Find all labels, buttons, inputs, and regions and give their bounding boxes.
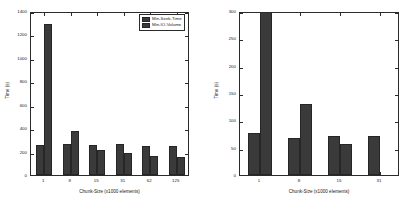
x-tick-mark (380, 172, 381, 175)
bar-left-62-s0 (142, 146, 150, 175)
x-tick-label: 31 (377, 179, 382, 183)
bar-right-8-s0 (288, 138, 300, 175)
x-tick-label: 15 (337, 179, 342, 183)
x-tick-label: 62 (147, 179, 152, 183)
x-tick-mark-top (97, 13, 98, 16)
x-tick-label: 125 (172, 179, 179, 183)
x-tick-label: 31 (120, 179, 125, 183)
y-tick-mark (240, 13, 243, 14)
y-tick-mark-right (395, 40, 398, 41)
chart-panel-left: 0200400600800100012001400 18153162125 Ch… (0, 0, 196, 206)
y-tick-mark (31, 107, 34, 108)
y-tick-label: 0 (196, 174, 236, 178)
x-tick-mark-top (340, 13, 341, 16)
x-tick-label: 15 (94, 179, 99, 183)
legend-label: Min-IO-Volume (152, 23, 181, 27)
x-tick-mark-top (44, 13, 45, 16)
bar-left-31-s1 (124, 153, 132, 175)
bar-left-15-s1 (97, 150, 105, 175)
legend-label: Min-Seek-Time (152, 17, 182, 21)
y-tick-label: 100 (196, 119, 236, 123)
x-axis-title-left: Chunk-Size (x1000 elements) (30, 190, 189, 195)
plot-area-left (30, 12, 189, 176)
y-tick-mark-right (185, 13, 188, 14)
y-tick-mark (31, 36, 34, 37)
bar-left-1-s0 (36, 145, 44, 175)
y-axis-title-right: Time (s) (215, 65, 220, 115)
y-tick-label: 600 (0, 104, 27, 108)
y-tick-mark (240, 40, 243, 41)
x-tick-mark-top (300, 13, 301, 16)
bar-right-8-s1 (300, 104, 312, 175)
x-tick-mark-top (260, 13, 261, 16)
bar-left-15-s0 (89, 145, 97, 175)
bar-right-1-s1 (260, 12, 272, 175)
x-tick-label: 1 (42, 179, 44, 183)
y-tick-label: 0 (0, 174, 27, 178)
y-tick-label: 1400 (0, 10, 27, 14)
x-axis-title-right: Chunk-Size (x1000 elements) (239, 190, 399, 195)
x-tick-mark-top (124, 13, 125, 16)
legend-swatch-icon (142, 17, 150, 22)
y-tick-mark (240, 95, 243, 96)
y-tick-mark (31, 83, 34, 84)
legend-item-min-io-volume: Min-IO-Volume (142, 23, 182, 29)
y-tick-mark-right (395, 122, 398, 123)
y-tick-label: 50 (196, 146, 236, 150)
x-tick-mark (150, 172, 151, 175)
y-tick-mark (240, 68, 243, 69)
x-tick-mark (340, 172, 341, 175)
bar-left-62-s1 (150, 156, 158, 175)
x-tick-label: 8 (69, 179, 71, 183)
chart-panel-right: 050100150200250300 181531 Chunk-Size (x1… (196, 0, 391, 206)
bar-left-125-s1 (177, 157, 185, 175)
y-tick-label: 400 (0, 127, 27, 131)
plot-area-right (239, 12, 399, 176)
x-tick-mark (71, 172, 72, 175)
bar-right-31-s0 (368, 136, 380, 175)
y-tick-mark-right (395, 95, 398, 96)
bar-left-31-s0 (116, 144, 124, 175)
y-tick-mark (31, 154, 34, 155)
x-tick-mark (44, 172, 45, 175)
y-tick-mark-right (185, 36, 188, 37)
bar-right-15-s1 (340, 144, 352, 175)
x-tick-mark (97, 172, 98, 175)
y-tick-label: 1000 (0, 57, 27, 61)
y-tick-mark (31, 13, 34, 14)
y-tick-mark-right (185, 130, 188, 131)
bar-left-8-s0 (63, 144, 71, 175)
x-tick-mark (300, 172, 301, 175)
bar-left-8-s1 (71, 131, 79, 175)
x-tick-mark-top (71, 13, 72, 16)
bar-right-1-s0 (248, 133, 260, 175)
y-tick-mark (31, 130, 34, 131)
y-tick-mark-right (395, 13, 398, 14)
y-tick-mark-right (185, 83, 188, 84)
x-tick-mark (124, 172, 125, 175)
y-axis-title-left: Time (s) (6, 65, 11, 115)
legend-swatch-icon (142, 23, 150, 28)
y-tick-mark (240, 122, 243, 123)
y-tick-mark-right (395, 150, 398, 151)
y-tick-label: 250 (196, 37, 236, 41)
y-tick-mark-right (395, 68, 398, 69)
bars-layer-left (31, 13, 188, 175)
y-tick-label: 200 (0, 150, 27, 154)
x-tick-mark (177, 172, 178, 175)
y-tick-label: 300 (196, 10, 236, 14)
x-tick-label: 1 (258, 179, 260, 183)
bar-left-1-s1 (44, 24, 52, 175)
bar-left-125-s0 (169, 146, 177, 175)
y-tick-mark-right (185, 154, 188, 155)
y-tick-mark-right (185, 60, 188, 61)
y-tick-label: 1200 (0, 33, 27, 37)
bar-right-15-s0 (328, 136, 340, 175)
x-tick-mark (260, 172, 261, 175)
bars-layer-right (240, 13, 398, 175)
y-tick-mark-right (185, 107, 188, 108)
x-tick-mark-top (380, 13, 381, 16)
y-tick-mark (240, 150, 243, 151)
y-tick-mark (31, 60, 34, 61)
